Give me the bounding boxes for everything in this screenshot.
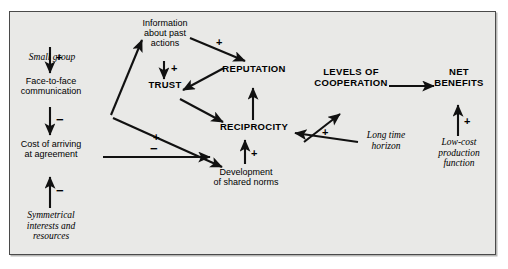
node-levels-of-cooperation: LEVELS OF COOPERATION <box>309 67 393 88</box>
node-face-to-face-communication: Face-to-face communication <box>10 76 92 96</box>
sign-shared-norms-to-reciprocity: + <box>251 148 257 159</box>
arrow-face-to-face-to-information <box>111 40 142 115</box>
sign-information-to-reputation: + <box>216 37 222 48</box>
sign-small-group-to-face-to-face: + <box>56 52 62 63</box>
node-information-about-past-actions: Information about past actions <box>127 18 203 48</box>
sign-cost-to-shared-norms: − <box>150 142 158 155</box>
figure-caption <box>0 0 508 9</box>
arrow-face-to-face-to-shared-norms <box>113 118 222 167</box>
node-long-time-horizon: Long time horizon <box>353 130 419 151</box>
arrow-trust-to-reciprocity <box>180 99 223 122</box>
node-development-of-shared-norms: Development of shared norms <box>200 167 292 187</box>
sign-long-time-horizon-to-reciprocity: + <box>322 127 328 138</box>
sign-low-cost-to-net-benefits: + <box>464 116 470 127</box>
node-reputation: REPUTATION <box>215 64 293 75</box>
sign-face-to-face-to-cost: − <box>56 113 64 126</box>
figure-root: Small group Face-to-face communication C… <box>0 0 508 269</box>
node-cost-of-arriving-at-agreement: Cost of arriving at agreement <box>10 139 92 159</box>
node-low-cost-production-function: Low-cost production function <box>426 137 492 169</box>
diagram-panel: Small group Face-to-face communication C… <box>9 11 496 255</box>
sign-information-to-trust: + <box>171 63 177 74</box>
node-small-group: Small group <box>12 52 92 63</box>
sign-symmetrical-to-cost: − <box>56 184 64 197</box>
node-net-benefits: NET BENEFITS <box>428 67 490 88</box>
node-trust: TRUST <box>134 80 196 91</box>
node-reciprocity: RECIPROCITY <box>208 122 300 133</box>
node-symmetrical-interests-and-resources: Symmetrical interests and resources <box>10 210 92 242</box>
